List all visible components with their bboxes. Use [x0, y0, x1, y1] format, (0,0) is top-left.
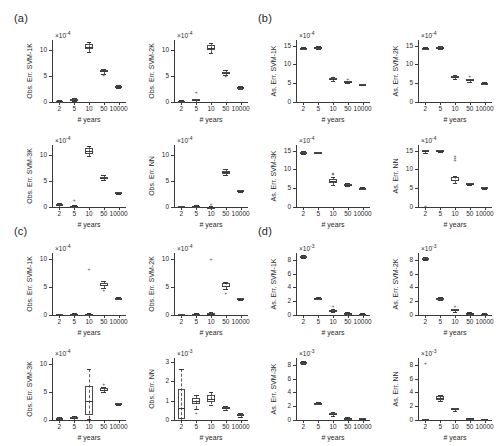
y-tick — [49, 392, 52, 393]
y-tick — [293, 406, 296, 407]
y-tick — [415, 420, 418, 421]
box-median — [481, 188, 489, 189]
x-tick-label: 10000 — [352, 211, 374, 218]
box-whisker-cap — [209, 405, 214, 406]
x-tick-label: 10000 — [352, 424, 374, 431]
box-whisker-cap — [87, 52, 92, 53]
axis-exponent-label: ×10-4 — [55, 244, 70, 253]
box-whisker-cap — [316, 49, 321, 50]
box-outlier: + — [223, 74, 228, 78]
y-axis-title: As. Err. NN — [392, 145, 399, 207]
y-axis-line — [418, 145, 419, 207]
y-tick — [171, 381, 174, 382]
box-whisker-cap — [223, 169, 228, 170]
subplot-a-1: ×10-40510Obs. Err. SVM-2K25105010000# ye… — [140, 28, 258, 128]
box-median — [85, 314, 93, 315]
y-tick — [171, 401, 174, 402]
box-whisker-cap — [209, 43, 214, 44]
box-whisker-cap — [331, 185, 336, 186]
box-whisker-cap — [331, 81, 336, 82]
box-median — [300, 257, 308, 258]
box-outlier: + — [223, 291, 228, 295]
box-median — [422, 420, 430, 421]
y-tick — [415, 365, 418, 366]
y-axis-line — [52, 145, 53, 207]
y-axis-title: Obs. Err. SVM-3K — [26, 145, 33, 207]
box-median — [178, 408, 186, 409]
box-whisker-cap — [209, 392, 214, 393]
box-whisker-cap — [467, 82, 472, 83]
box-median — [422, 151, 430, 152]
axis-exponent-label: ×10-3 — [299, 244, 314, 253]
box-whisker-cap — [331, 312, 336, 313]
subplot-a-2: ×10-40510Obs. Err. SVM-3K25105010000# ye… — [18, 133, 136, 233]
box-median — [100, 285, 108, 286]
axis-exponent-label: ×10-4 — [55, 136, 70, 145]
x-tick-label: 10000 — [474, 106, 496, 113]
box-median — [100, 178, 108, 179]
y-tick — [415, 315, 418, 316]
box-outlier: + — [194, 411, 199, 415]
y-axis-line — [52, 253, 53, 315]
y-axis-title: Obs. Err. SVM-2K — [148, 253, 155, 315]
box-whisker-cap — [453, 312, 458, 313]
box-whisker-cap — [238, 300, 243, 301]
x-tick-label: 10000 — [108, 211, 130, 218]
y-tick — [49, 181, 52, 182]
box-whisker-cap — [438, 401, 443, 402]
y-tick — [415, 274, 418, 275]
x-tick-label: 10000 — [474, 319, 496, 326]
box-median — [56, 205, 64, 206]
y-tick — [293, 151, 296, 152]
y-tick — [171, 181, 174, 182]
subplot-d-3: ×10-302468As. Err. NN25105010000# years+ — [384, 346, 498, 446]
box-median — [222, 172, 230, 173]
panel-label-b: (b) — [258, 12, 272, 24]
y-tick — [49, 76, 52, 77]
axis-exponent-label: ×10-4 — [421, 136, 436, 145]
axis-exponent-label: ×10-4 — [55, 31, 70, 40]
y-tick — [415, 287, 418, 288]
x-axis-title: # years — [174, 434, 248, 441]
y-tick — [415, 46, 418, 47]
y-tick — [49, 50, 52, 51]
y-axis-title: As. Err. SVM-2K — [392, 40, 399, 102]
box-whisker-cap — [223, 410, 228, 411]
y-tick — [293, 169, 296, 170]
box-median — [451, 310, 459, 311]
y-axis-title: As. Err. SVM-1K — [270, 40, 277, 102]
y-tick — [415, 64, 418, 65]
y-tick — [293, 207, 296, 208]
box-median — [70, 100, 78, 101]
box-whisker-cap — [87, 419, 92, 420]
y-tick — [293, 83, 296, 84]
box-median — [237, 415, 245, 416]
y-tick — [415, 379, 418, 380]
box-outlier: + — [101, 382, 106, 386]
y-axis-title: Obs. Err. NN — [148, 358, 155, 420]
y-tick — [171, 76, 174, 77]
box-median — [85, 151, 93, 152]
subplot-b-2: ×10-4051015As. Err. SVM-3K25105010000# y… — [262, 133, 380, 233]
box-median — [237, 87, 245, 88]
y-tick — [171, 50, 174, 51]
box-median — [237, 299, 245, 300]
box-whisker-cap — [301, 154, 306, 155]
x-axis-title: # years — [52, 329, 126, 336]
y-tick — [415, 301, 418, 302]
box-outlier: + — [194, 90, 199, 94]
box-median — [344, 418, 352, 419]
box-whisker-cap — [345, 83, 350, 84]
box-median — [70, 206, 78, 207]
box-whisker-cap — [438, 49, 443, 50]
box-whisker-cap — [101, 180, 106, 181]
box-whisker-cap — [116, 405, 121, 406]
box-median — [314, 298, 322, 299]
box-median — [207, 207, 215, 208]
box-median — [56, 419, 64, 420]
y-tick — [293, 315, 296, 316]
box-median — [300, 153, 308, 154]
y-tick — [49, 315, 52, 316]
box-whisker-cap — [423, 49, 428, 50]
box-whisker-cap — [179, 420, 184, 421]
